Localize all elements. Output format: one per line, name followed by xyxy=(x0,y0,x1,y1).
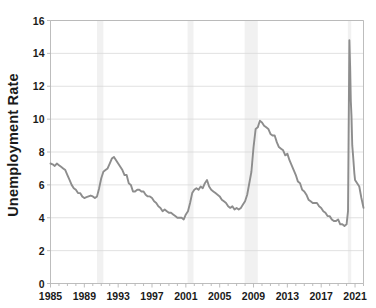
y-axis-tick-label: 14 xyxy=(33,47,45,59)
x-axis-tick-label: 2013 xyxy=(276,290,300,302)
y-axis-tick-label: 4 xyxy=(39,212,45,224)
x-axis-tick-label: 2009 xyxy=(242,290,266,302)
x-axis-tick-label: 2005 xyxy=(208,290,232,302)
y-axis-ticks-group xyxy=(47,21,51,284)
y-axis-tick-labels-group: 0246810121416 xyxy=(33,15,45,290)
y-axis-tick-label: 16 xyxy=(33,15,45,27)
y-axis-tick-label: 2 xyxy=(39,245,45,257)
x-axis-tick-label: 2017 xyxy=(310,290,334,302)
y-axis-tick-label: 8 xyxy=(39,146,45,158)
chart-plot-area: 0246810121416 19851989199319972001200520… xyxy=(0,0,376,308)
x-axis-tick-labels-group: 1985198919931997200120052009201320172021 xyxy=(39,290,367,302)
x-axis-tick-label: 1993 xyxy=(106,290,130,302)
y-axis-tick-label: 0 xyxy=(39,278,45,290)
x-axis-tick-label: 1985 xyxy=(39,290,63,302)
y-axis-tick-label: 10 xyxy=(33,113,45,125)
x-axis-tick-label: 1989 xyxy=(73,290,97,302)
x-axis-tick-label: 2021 xyxy=(343,290,367,302)
x-axis-ticks-group xyxy=(51,284,364,288)
y-axis-tick-label: 12 xyxy=(33,80,45,92)
x-axis-tick-label: 1997 xyxy=(140,290,164,302)
x-axis-tick-label: 2001 xyxy=(174,290,198,302)
unemployment-rate-chart: Unemployment Rate 0246810121416 19851989… xyxy=(0,0,376,308)
y-axis-tick-label: 6 xyxy=(39,179,45,191)
